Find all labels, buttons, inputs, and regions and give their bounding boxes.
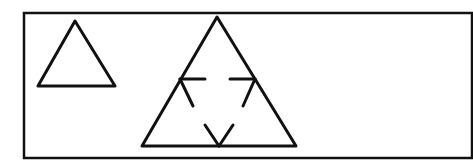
right-mark: [230, 79, 255, 106]
bottom-mark: [205, 125, 233, 146]
bottom-mark-segment: [205, 125, 219, 146]
left-mark: [180, 79, 205, 106]
right-mark-segment: [243, 79, 255, 106]
diagram-canvas: [0, 0, 473, 162]
bottom-mark-segment: [219, 125, 233, 146]
left-mark-segment: [180, 79, 193, 106]
inner-corner-marks: [180, 79, 255, 146]
small-triangle: [38, 21, 115, 86]
large-triangle: [142, 17, 296, 146]
